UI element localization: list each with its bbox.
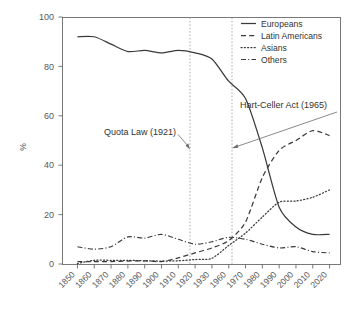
- annotation-hart-celler-label: Hart-Celler Act (1965): [240, 100, 327, 110]
- legend-label-asians: Asians: [261, 43, 287, 53]
- y-tick-label-60: 60: [44, 111, 54, 121]
- immigration-origins-line-chart: % 0 20 40 60 80 100 18501860187018801890…: [0, 0, 353, 318]
- y-tick-label-100: 100: [39, 12, 54, 22]
- y-tick-label-0: 0: [49, 259, 54, 269]
- y-tick-label-80: 80: [44, 62, 54, 72]
- y-tick-label-20: 20: [44, 210, 54, 220]
- annotation-quota-law-label: Quota Law (1921): [104, 127, 176, 137]
- chart-background: [0, 0, 353, 318]
- y-axis-title: %: [18, 143, 28, 151]
- chart-canvas: % 0 20 40 60 80 100 18501860187018801890…: [0, 0, 353, 318]
- legend-label-others: Others: [261, 55, 287, 65]
- legend-label-latin-americans: Latin Americans: [261, 31, 322, 41]
- y-tick-label-40: 40: [44, 160, 54, 170]
- legend-label-europeans: Europeans: [261, 19, 303, 29]
